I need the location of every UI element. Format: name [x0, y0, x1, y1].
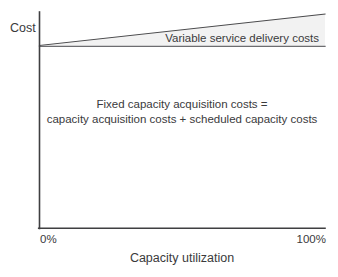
- x-axis-tick-max: 100%: [0, 234, 326, 246]
- cost-capacity-chart: Cost Variable service delivery costs Fix…: [0, 0, 338, 277]
- fixed-costs-annotation: Fixed capacity acquisition costs = capac…: [39, 97, 325, 126]
- variable-costs-label: Variable service delivery costs: [0, 33, 319, 45]
- fixed-costs-annotation-line-2: capacity acquisition costs + scheduled c…: [39, 112, 325, 127]
- fixed-costs-annotation-line-1: Fixed capacity acquisition costs =: [39, 97, 325, 112]
- x-axis-title: Capacity utilization: [39, 252, 325, 265]
